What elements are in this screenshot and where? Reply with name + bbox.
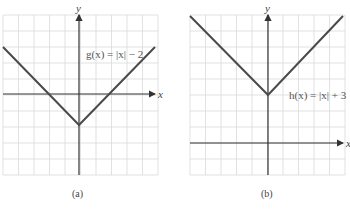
figure-canvas: y x g(x) = |x| − 2 (a) y x h(x) = |x| + …	[0, 0, 350, 209]
grid-a	[3, 15, 158, 175]
y-axis-label-b: y	[264, 2, 270, 14]
x-axis-label-b: x	[345, 137, 350, 149]
x-axis-label-a: x	[157, 88, 163, 100]
caption-b: (b)	[261, 188, 273, 200]
y-axis-label-a: y	[75, 2, 81, 14]
equation-h: h(x) = |x| + 3	[289, 89, 347, 102]
graph-h	[190, 16, 343, 95]
panel-b: y x h(x) = |x| + 3 (b)	[190, 2, 350, 200]
equation-g: g(x) = |x| − 2	[86, 48, 143, 61]
caption-a: (a)	[72, 188, 83, 200]
panel-a: y x g(x) = |x| − 2 (a)	[3, 2, 163, 200]
